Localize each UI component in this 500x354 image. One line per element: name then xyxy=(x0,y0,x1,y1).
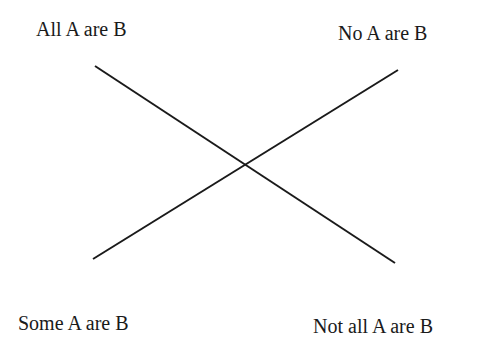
label-some-a-are-b: Some A are B xyxy=(18,313,129,333)
label-not-all-a-are-b: Not all A are B xyxy=(313,316,433,336)
diagram-canvas: All A are B No A are B Some A are B Not … xyxy=(0,0,500,354)
crossing-lines xyxy=(0,0,500,354)
line-some-to-no xyxy=(93,70,398,259)
label-no-a-are-b: No A are B xyxy=(338,23,427,43)
label-all-a-are-b: All A are B xyxy=(36,19,127,39)
